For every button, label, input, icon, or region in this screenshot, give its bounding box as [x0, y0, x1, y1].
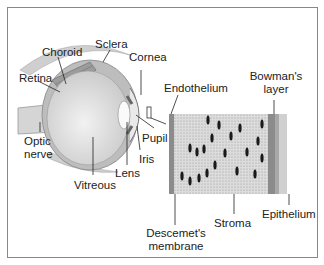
keratocyte-cell	[202, 145, 205, 154]
label-endothelium: Endothelium	[164, 82, 228, 94]
vitreous-shape	[47, 71, 129, 165]
keratocyte-cell	[195, 148, 198, 157]
keratocyte-cell	[223, 149, 226, 158]
label-epithelium: Epithelium	[262, 208, 316, 220]
keratocyte-cell	[206, 116, 209, 125]
label-bowmans-line1: Bowman's	[248, 70, 304, 82]
lens-shape	[118, 101, 130, 129]
stroma-layer	[174, 114, 268, 194]
descemets-endothelium-layer	[169, 114, 174, 194]
epithelium-layer	[279, 114, 287, 194]
label-iris: Iris	[139, 153, 154, 165]
leader-sclera	[103, 50, 110, 62]
keratocyte-cell	[256, 137, 259, 146]
keratocyte-cell	[229, 132, 232, 141]
label-stroma: Stroma	[214, 217, 251, 229]
keratocyte-cell	[260, 120, 263, 129]
keratocyte-cell	[180, 172, 183, 181]
label-descemets-line1: Descemet's	[145, 227, 207, 239]
leader-endothelium	[171, 95, 178, 114]
bowmans-layer	[268, 114, 275, 194]
label-optic-nerve-line2: nerve	[24, 148, 53, 160]
keratocyte-cell	[197, 174, 200, 183]
label-cornea: Cornea	[129, 51, 167, 63]
label-optic-nerve-line1: Optic	[24, 135, 51, 147]
leader-iris	[137, 126, 140, 150]
keratocyte-cell	[188, 144, 191, 153]
label-vitreous: Vitreous	[74, 179, 116, 191]
label-retina: Retina	[19, 72, 52, 84]
keratocyte-cell	[253, 170, 256, 179]
keratocyte-cell	[213, 161, 216, 170]
label-descemets-line2: membrane	[145, 240, 207, 252]
epithelium-layer-dark	[275, 114, 279, 194]
label-lens: Lens	[115, 167, 140, 179]
keratocyte-cell	[245, 148, 248, 157]
keratocyte-cell	[210, 134, 213, 143]
label-sclera: Sclera	[95, 38, 128, 50]
label-choroid: Choroid	[42, 46, 82, 58]
keratocyte-cell	[205, 169, 208, 178]
cornea-zoom-box	[147, 107, 151, 118]
keratocyte-cell	[188, 177, 191, 186]
keratocyte-cell	[238, 124, 241, 133]
keratocyte-cell	[260, 154, 263, 163]
label-bowmans-line2: layer	[248, 83, 304, 95]
keratocyte-cell	[235, 167, 238, 176]
keratocyte-cell	[217, 121, 220, 130]
label-pupil: Pupil	[142, 132, 168, 144]
